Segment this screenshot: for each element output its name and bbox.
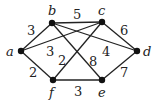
node-label-d: d — [143, 44, 151, 59]
node-label-e: e — [98, 85, 106, 100]
edge-weight-b-d: 4 — [102, 44, 110, 59]
node-label-f: f — [48, 85, 56, 100]
node-label-c: c — [98, 3, 106, 18]
edge-weight-a-b: 3 — [27, 23, 35, 38]
node-label-a: a — [6, 44, 14, 59]
weighted-graph-diagram: 3567323482abcdef — [0, 0, 161, 101]
node-c — [99, 19, 105, 25]
edge-weight-b-e: 8 — [89, 54, 97, 69]
edge-weight-e-f: 3 — [74, 84, 82, 99]
edge-weight-d-e: 7 — [120, 65, 128, 80]
edge-weight-f-a: 2 — [29, 65, 37, 80]
graph-canvas: 3567323482abcdef — [0, 0, 161, 101]
node-e — [99, 77, 105, 83]
edge-b-c — [52, 22, 102, 23]
node-a — [18, 48, 24, 54]
edge-weight-c-f: 2 — [58, 53, 66, 68]
node-f — [50, 77, 56, 83]
edge-weight-c-d: 6 — [120, 23, 128, 38]
node-label-b: b — [48, 3, 56, 18]
edge-weight-b-c: 5 — [73, 7, 81, 22]
node-d — [134, 48, 140, 54]
edge-weight-a-c: 3 — [46, 44, 54, 59]
node-b — [49, 20, 55, 26]
